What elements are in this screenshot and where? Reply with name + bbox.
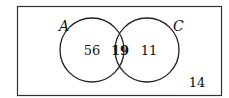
venn-diagram: A C 56 19 11 14 — [0, 0, 229, 98]
region-intersection: 19 — [111, 43, 129, 58]
label-a: A — [57, 18, 69, 34]
region-a-only: 56 — [84, 43, 101, 58]
label-c: C — [173, 18, 184, 34]
region-c-only: 11 — [141, 43, 158, 58]
region-outside: 14 — [189, 75, 206, 90]
